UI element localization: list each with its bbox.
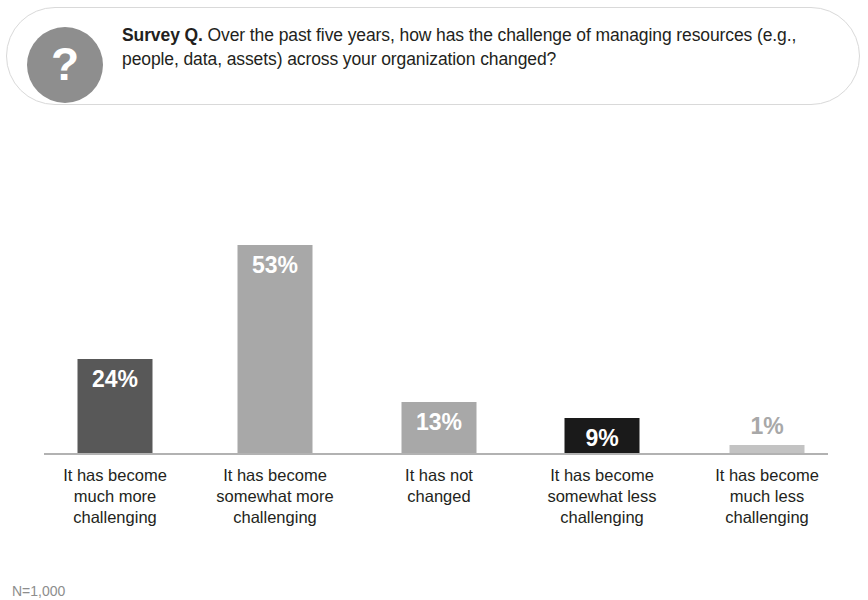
chart-plot-area: 24%53%13%9%1% (0, 110, 868, 455)
category-label-line: challenging (679, 507, 855, 528)
category-label-line: challenging (27, 507, 203, 528)
bar[interactable]: 1% (730, 445, 805, 453)
category-label: It has notchanged (351, 465, 527, 507)
category-label-line: somewhat more (187, 486, 363, 507)
survey-question-body: Over the past five years, how has the ch… (122, 25, 796, 69)
bar-value-label: 24% (78, 368, 153, 391)
bar[interactable]: 13% (402, 402, 477, 453)
question-mark-icon: ? (27, 27, 103, 103)
survey-question-callout: ? Survey Q. Over the past five years, ho… (6, 7, 860, 105)
category-label-line: It has become (514, 465, 690, 486)
category-label-line: It has not (351, 465, 527, 486)
category-label-line: challenging (514, 507, 690, 528)
bar[interactable]: 9% (565, 418, 640, 453)
bar-value-label: 53% (238, 254, 313, 277)
bar-value-label: 13% (402, 411, 477, 434)
chart-category-axis: It has becomemuch morechallengingIt has … (0, 465, 868, 555)
category-label: It has becomemuch morechallenging (27, 465, 203, 528)
survey-question-lead: Survey Q. (122, 25, 203, 45)
category-label-line: It has become (187, 465, 363, 486)
category-label-line: It has become (27, 465, 203, 486)
question-mark-glyph: ? (51, 41, 79, 87)
category-label-line: It has become (679, 465, 855, 486)
bar-slot: 24% (35, 110, 195, 455)
bar-value-label: 1% (730, 415, 805, 438)
category-label: It has becomesomewhat morechallenging (187, 465, 363, 528)
bar-slot: 1% (687, 110, 847, 455)
bar[interactable]: 53% (238, 245, 313, 453)
category-label-line: much less (679, 486, 855, 507)
bar-slot: 9% (522, 110, 682, 455)
category-label: It has becomesomewhat lesschallenging (514, 465, 690, 528)
category-label: It has becomemuch lesschallenging (679, 465, 855, 528)
category-label-line: challenging (187, 507, 363, 528)
bar-chart: 24%53%13%9%1% It has becomemuch morechal… (0, 110, 868, 600)
bar-value-label: 9% (565, 427, 640, 450)
category-label-line: somewhat less (514, 486, 690, 507)
sample-size-note: N=1,000 (12, 583, 65, 599)
bar[interactable]: 24% (78, 359, 153, 453)
bar-slot: 13% (359, 110, 519, 455)
survey-question-text: Survey Q. Over the past five years, how … (122, 24, 822, 71)
category-label-line: changed (351, 486, 527, 507)
category-label-line: much more (27, 486, 203, 507)
bar-slot: 53% (195, 110, 355, 455)
